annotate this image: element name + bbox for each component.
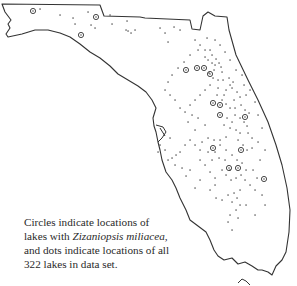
lake-dot [216,94,217,95]
lake-dot [95,16,96,17]
lake-dot [231,201,232,202]
lake-dot [239,96,240,97]
lake-dot [246,149,247,150]
lake-dot [164,32,165,33]
lake-dot [179,29,180,30]
lake-dot [219,114,220,115]
lake-dot [206,37,207,38]
lake-dot [231,229,232,230]
lake-dot [211,62,212,63]
lake-dot [167,159,168,160]
lake-dot [214,184,215,185]
lake-dot [254,101,255,102]
lake-dot [196,67,197,68]
lake-dot [214,39,215,40]
lake-dot [173,26,174,27]
lake-dot [207,59,208,60]
lake-dot [175,154,176,155]
lake-dot [167,41,168,42]
lake-dot [241,74,242,75]
lake-dot [225,89,226,90]
lake-dot [261,194,262,195]
lake-dot [240,174,241,175]
lake-dot [130,32,131,33]
map-caption: Circles indicate locations of lakes with… [24,215,224,271]
lake-dot [229,214,230,215]
lake-dot [189,169,190,170]
lake-dot [87,11,88,12]
lake-dot [134,29,135,30]
lake-dot [231,154,232,155]
lake-dot [244,109,245,110]
lake-dot [209,84,210,85]
lake-dot [239,204,240,205]
lake-dot [247,132,248,133]
lake-dot [218,62,219,63]
lake-dot [249,184,250,185]
lake-dot [217,79,218,80]
lake-dot [224,51,225,52]
lake-dot [211,54,212,55]
lake-dot [111,23,112,24]
lake-dot [248,112,249,113]
lake-dot [215,197,216,198]
lake-dot [220,66,221,67]
lake-dot [237,167,238,168]
lake-dot [72,17,73,18]
lake-dot [179,151,180,152]
lake-dot [164,149,165,150]
lake-dot [239,189,240,190]
lake-dot [229,84,230,85]
lake-dot [259,159,260,160]
lake-dot [239,117,240,118]
lake-dot [189,104,190,105]
lake-dot [224,159,225,160]
lake-dot [199,159,200,160]
lake-dot [235,209,236,210]
lake-dot [167,81,168,82]
lake-dot [214,64,215,65]
lake-dot [245,169,246,170]
lake-dot [240,104,241,105]
lake-dot [209,73,210,74]
lake-dot [174,99,175,100]
lake-dot [213,139,214,140]
lake-dot [242,144,243,145]
lake-dot [251,147,252,148]
lake-dot [194,39,195,40]
caption-line-1: Circles indicate locations of [24,215,224,229]
lake-dot [194,187,195,188]
lake-dot [240,149,241,150]
lake-dot [254,189,255,190]
lake-dot [189,54,190,55]
caption-line-4: 322 lakes in data set. [24,257,224,271]
lake-dot [235,129,236,130]
lake-dot [236,197,237,198]
lake-dot [221,169,222,170]
lake-dot [204,89,205,90]
lake-dot [225,174,226,175]
lake-dot [263,178,264,179]
lake-dot [194,99,195,100]
lake-dot [217,87,218,88]
lake-dot [233,192,234,193]
keys-fragment [238,279,250,285]
lake-dot [264,149,265,150]
lake-dot [197,117,198,118]
caption-line-2: lakes with Zizaniopsis miliacea, [24,229,224,243]
lake-dot [226,117,227,118]
lake-dot [218,157,219,158]
lake-dot [235,69,236,70]
lake-dot [197,49,198,50]
lake-dot [74,23,75,24]
lake-dot [225,136,226,137]
lake-dot [212,102,213,103]
lake-dot [235,177,236,178]
lake-dot [219,139,220,140]
lake-dot [223,124,224,125]
lake-dot [239,132,240,133]
lake-dot [194,129,195,130]
lake-dot [159,144,160,145]
lake-dot [234,114,235,115]
lake-dot [39,8,40,9]
